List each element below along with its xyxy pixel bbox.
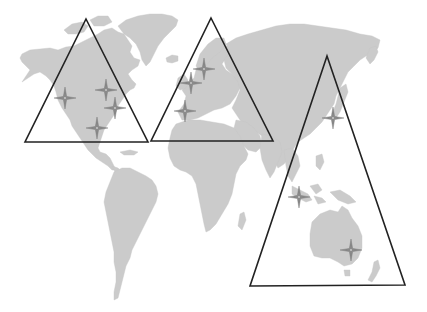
- land-australia: [310, 206, 362, 266]
- four-point-star-icon: [288, 186, 310, 208]
- world-map: [0, 0, 427, 312]
- land-africa: [168, 120, 248, 232]
- land-north-america: [20, 28, 140, 170]
- land-new-zealand: [368, 260, 380, 282]
- land-madagascar: [238, 212, 246, 230]
- land-caribbean: [120, 150, 138, 155]
- land-tasmania: [344, 270, 350, 276]
- world-map-canvas: [0, 0, 427, 312]
- land-new-guinea: [330, 190, 356, 204]
- land-philippines: [316, 154, 324, 170]
- land-iceland: [166, 55, 178, 63]
- land-south-america: [104, 168, 158, 300]
- land-indonesia: [292, 184, 326, 204]
